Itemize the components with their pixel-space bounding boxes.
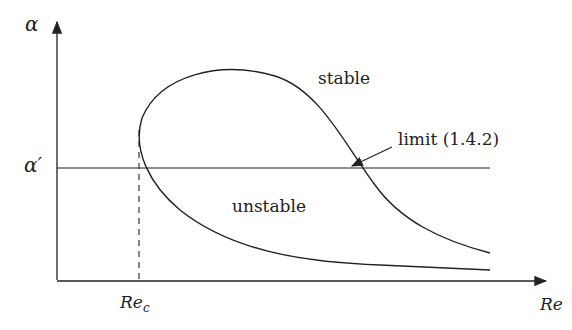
alpha-prime-label: α′ [24,153,42,177]
re-c-label: Rec [120,292,150,315]
y-axis-label: α [25,12,39,36]
stability-diagram [0,0,572,330]
limit-label: limit (1.4.2) [398,129,499,149]
x-axis-label: Re [540,294,563,314]
re-c-subscript: c [143,301,150,315]
re-c-main: Re [120,292,143,312]
limit-arrow [352,147,392,166]
neutral-stability-curve [139,70,490,270]
region-unstable-label: unstable [232,196,306,216]
region-stable-label: stable [318,68,370,88]
